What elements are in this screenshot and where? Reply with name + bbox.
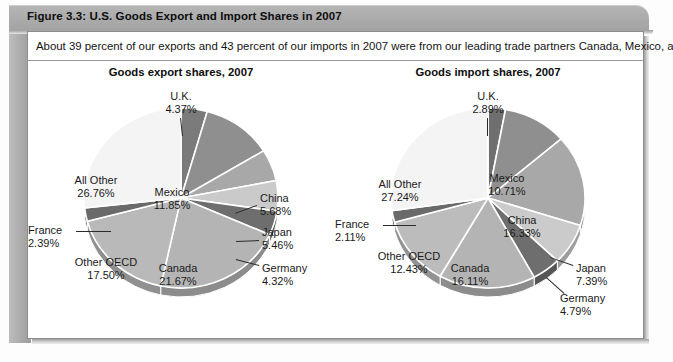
pie-label-value: 11.85% (127, 199, 217, 212)
pie-label-value: 16.33% (477, 227, 567, 240)
chart-title-import: Goods import shares, 2007 (338, 66, 638, 78)
pie-label-value: 5.46% (262, 239, 293, 252)
pie-label-other-oecd: Other OECD12.43% (364, 250, 454, 275)
pie-label-name: Mexico (462, 172, 552, 185)
pie-label-all-other: All Other26.76% (51, 174, 141, 199)
pie-label-name: France (28, 224, 62, 237)
pie-label-name: U.K. (443, 90, 533, 103)
pie-label-value: 7.39% (576, 275, 607, 288)
pie-label-value: 12.43% (364, 263, 454, 276)
chart-goods-export-shares: Goods export shares, 2007 U.K.4.37%Mexic… (31, 66, 331, 336)
pie-label-name: China (477, 214, 567, 227)
pie-label-value: 27.24% (355, 191, 445, 204)
pie-label-mexico: Mexico10.71% (462, 172, 552, 197)
caption-divider (28, 60, 643, 61)
pie-label-name: U.K. (136, 90, 226, 103)
pie-label-name: France (335, 218, 369, 231)
pie-label-germany: Germany4.79% (560, 292, 605, 317)
pie-label-china: China16.33% (477, 214, 567, 239)
pie-label-u-k-: U.K.2.89% (443, 90, 533, 115)
pie-label-value: 10.71% (462, 185, 552, 198)
pie-label-leader-line (383, 225, 416, 226)
pie-label-value: 17.50% (61, 269, 151, 282)
pie-label-china: China5.68% (260, 192, 291, 217)
pie-label-value: 26.76% (51, 187, 141, 200)
pie-label-leader-line (76, 231, 111, 232)
pie-label-value: 4.32% (262, 275, 307, 288)
pie-label-germany: Germany4.32% (262, 262, 307, 287)
pie-label-name: China (260, 192, 291, 205)
pie-label-value: 5.68% (260, 205, 291, 218)
pie-label-name: Germany (560, 292, 605, 305)
pie-label-other-oecd: Other OECD17.50% (61, 256, 151, 281)
pie-label-name: Other OECD (61, 256, 151, 269)
pie-label-value: 2.11% (335, 231, 369, 244)
pie-label-japan: Japan7.39% (576, 262, 607, 287)
pie-label-name: Germany (262, 262, 307, 275)
pie-label-name: Other OECD (364, 250, 454, 263)
card-shadow-bottom (32, 339, 649, 344)
pie-label-name: Japan (262, 226, 293, 239)
pie-label-name: Japan (576, 262, 607, 275)
pie-label-france: France2.11% (335, 218, 369, 243)
chart-goods-import-shares: Goods import shares, 2007 U.K.2.89%Mexic… (338, 66, 638, 336)
pie-label-name: All Other (355, 178, 445, 191)
figure-container: Figure 3.3: U.S. Goods Export and Import… (0, 0, 673, 362)
pie-label-value: 16.11% (425, 275, 515, 288)
pie-label-japan: Japan5.46% (262, 226, 293, 251)
card-shadow-right (644, 36, 649, 343)
pie-label-value: 4.79% (560, 305, 605, 318)
chart-title-export: Goods export shares, 2007 (31, 66, 331, 78)
pie-label-u-k-: U.K.4.37% (136, 90, 226, 115)
pie-label-value: 4.37% (136, 103, 226, 116)
figure-header-title: Figure 3.3: U.S. Goods Export and Import… (27, 10, 342, 22)
pie-label-value: 2.39% (28, 237, 62, 250)
pie-label-france: France2.39% (28, 224, 62, 249)
pie-label-name: All Other (51, 174, 141, 187)
pie-label-leader-line (487, 118, 488, 136)
pie-label-value: 2.89% (443, 103, 533, 116)
pie-label-all-other: All Other27.24% (355, 178, 445, 203)
figure-caption: About 39 percent of our exports and 43 p… (36, 39, 636, 53)
